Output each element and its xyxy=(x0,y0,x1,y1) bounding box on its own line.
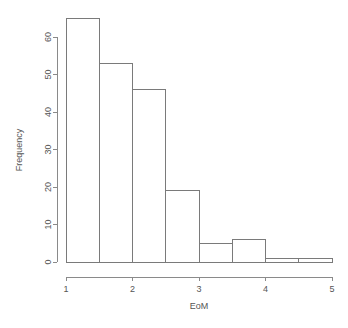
histogram-bar xyxy=(66,18,99,262)
y-axis: 0102030405060 xyxy=(43,32,57,265)
histogram-bars xyxy=(66,18,332,262)
x-axis: 12345 xyxy=(63,277,334,294)
x-axis-tick-label: 4 xyxy=(263,284,268,294)
y-axis-tick-label: 40 xyxy=(43,107,53,117)
y-axis-tick-label: 50 xyxy=(43,69,53,79)
histogram-bar xyxy=(166,191,199,262)
histogram-bar xyxy=(199,243,232,262)
histogram-bar xyxy=(299,258,332,262)
x-axis-tick-label: 3 xyxy=(196,284,201,294)
y-axis-tick-label: 20 xyxy=(43,182,53,192)
histogram-bar xyxy=(133,90,166,263)
y-axis-tick-label: 10 xyxy=(43,219,53,229)
x-axis-title: EoM xyxy=(190,301,209,311)
y-axis-tick-label: 30 xyxy=(43,144,53,154)
y-axis-tick-label: 0 xyxy=(43,259,53,264)
histogram-chart: 0102030405060 12345 Frequency EoM xyxy=(0,0,348,328)
histogram-bar xyxy=(266,258,299,262)
y-axis-tick-label: 60 xyxy=(43,32,53,42)
y-axis-title: Frequency xyxy=(14,128,24,171)
histogram-bar xyxy=(99,63,132,262)
histogram-plot-area: 0102030405060 12345 Frequency EoM xyxy=(0,0,348,328)
x-axis-tick-label: 1 xyxy=(63,284,68,294)
histogram-bar xyxy=(232,240,265,263)
x-axis-tick-label: 5 xyxy=(329,284,334,294)
x-axis-tick-label: 2 xyxy=(130,284,135,294)
